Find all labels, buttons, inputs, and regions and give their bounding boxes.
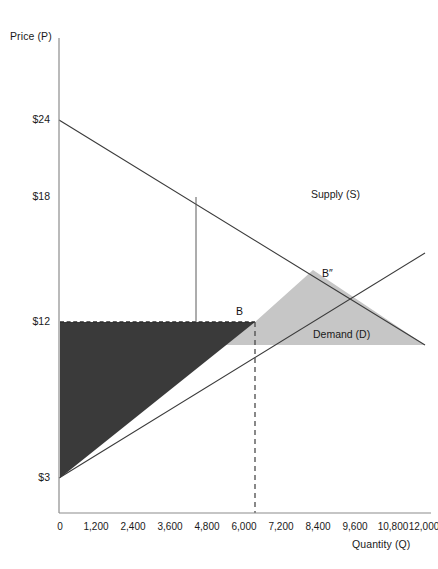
x-tick-label-3600: 3,600 <box>157 521 182 532</box>
x-tick-label-0: 0 <box>57 521 63 532</box>
x-tick-label-7200: 7,200 <box>268 521 293 532</box>
producer-surplus-region <box>60 322 255 478</box>
x-tick-label-10800: 10,800 <box>378 521 409 532</box>
x-tick-label-6000: 6,000 <box>231 521 256 532</box>
equilibrium-point-b-label: B <box>236 305 243 317</box>
supply-curve-label: Supply (S) <box>311 188 360 200</box>
figure-supply-demand: Price (P) Quantity (Q) $24 $18 $12 $3 0 … <box>0 0 438 569</box>
y-tick-label-3: $3 <box>6 471 50 483</box>
x-axis-title: Quantity (Q) <box>352 538 410 550</box>
x-tick-label-8400: 8,400 <box>305 521 330 532</box>
x-tick-label-2400: 2,400 <box>120 521 145 532</box>
x-tick-label-4800: 4,800 <box>194 521 219 532</box>
y-axis-title: Price (P) <box>10 30 52 42</box>
chart-canvas <box>0 0 438 569</box>
x-tick-label-1200: 1,200 <box>83 521 108 532</box>
demand-curve-label: Demand (D) <box>313 328 370 340</box>
x-tick-label-12000: 12,000 <box>409 521 438 532</box>
y-tick-label-12: $12 <box>6 315 50 327</box>
y-tick-label-18: $18 <box>6 190 50 202</box>
equilibrium-point-b-double-prime-label: B″ <box>322 267 333 279</box>
y-tick-label-24: $24 <box>6 113 50 125</box>
x-tick-label-9600: 9,600 <box>342 521 367 532</box>
